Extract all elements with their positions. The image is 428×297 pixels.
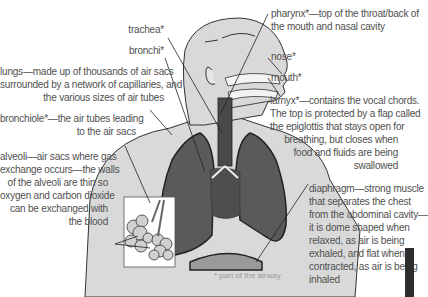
label-bronchi: bronchi* — [80, 44, 164, 57]
label-mouth: mouth* — [271, 71, 302, 84]
trachea — [218, 98, 232, 166]
label-nose: nose* — [271, 50, 296, 63]
label-trachea: trachea* — [80, 23, 164, 36]
label-pharynx: pharynx*—top of the throat/back of the m… — [271, 7, 419, 33]
footnote: * part of the airway — [214, 271, 281, 280]
label-lungs: lungs—made up of thousands of air sacs s… — [0, 65, 164, 104]
label-alveoli: alveoli—air sacs where gas exchange occu… — [0, 150, 108, 228]
label-larynx: larnyx*—contains the vocal chords. The t… — [270, 94, 398, 172]
page-edge-tab — [405, 248, 414, 297]
label-bronchiole: bronchiole*—the air tubes leading to the… — [0, 112, 136, 138]
